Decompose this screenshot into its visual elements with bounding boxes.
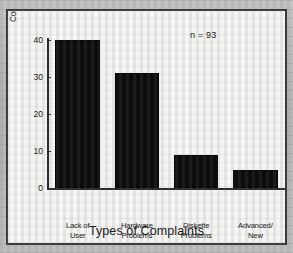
y-axis-title: Number of Complaints [6, 9, 18, 47]
x-axis-title: Types of Complaints [8, 224, 285, 238]
y-tick-mark [48, 40, 51, 42]
plot-area: 010203040Lack ofUserKnowledgeHardwarePro… [48, 40, 285, 188]
bar-4 [233, 170, 278, 189]
chart-panel: n = 93 Number of Complaints 010203040Lac… [8, 11, 285, 243]
y-tick-label: 20 [34, 110, 43, 119]
category-label-line: Knowledge [48, 241, 107, 245]
y-tick-label: 0 [38, 184, 43, 193]
scanned-page-background: n = 93 Number of Complaints 010203040Lac… [0, 0, 293, 253]
category-label-line: Software [226, 241, 285, 245]
bar-2 [115, 73, 160, 188]
y-tick-label: 40 [34, 36, 43, 45]
bar-1 [55, 40, 100, 188]
bar-3 [174, 155, 219, 188]
x-axis-line [47, 188, 285, 190]
y-tick-mark [48, 188, 51, 190]
y-axis-title-line-2: Complaints [9, 9, 19, 47]
y-tick-mark [48, 114, 51, 116]
y-tick-mark [48, 77, 51, 79]
y-tick-label: 30 [34, 73, 43, 82]
y-tick-label: 10 [34, 147, 43, 156]
chart-frame: n = 93 Number of Complaints 010203040Lac… [6, 9, 287, 245]
sample-size-annotation: n = 93 [190, 30, 216, 40]
y-tick-mark [48, 151, 51, 153]
